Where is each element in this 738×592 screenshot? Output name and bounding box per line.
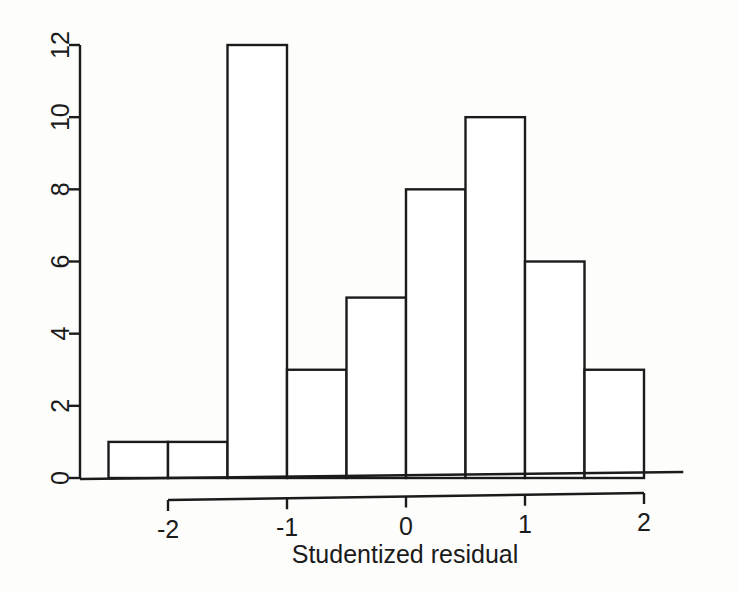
y-tick-label: 0: [46, 471, 74, 485]
histogram-bar: [525, 262, 585, 479]
x-tick-labels: -2-1012: [157, 508, 651, 543]
x-tick-label: 0: [399, 512, 413, 540]
y-tick-label: 12: [46, 31, 74, 59]
histogram-bar: [168, 442, 228, 478]
histogram-figure: 024681012 -2-1012 Studentized residual: [0, 0, 738, 592]
x-tick-label: -1: [276, 513, 298, 541]
y-tick-labels: 024681012: [46, 31, 74, 485]
histogram-bar: [406, 189, 466, 478]
y-tick-label: 10: [46, 103, 74, 131]
histogram-bar: [109, 442, 169, 478]
histogram-bars: [109, 45, 645, 478]
histogram-bar: [287, 370, 347, 478]
x-tick-label: -2: [157, 515, 179, 543]
x-tick-label: 1: [518, 510, 532, 538]
y-tick-label: 6: [46, 255, 74, 269]
y-tick-label: 4: [46, 327, 74, 341]
histogram-bar: [228, 45, 288, 478]
x-axis-title: Studentized residual: [292, 540, 519, 568]
histogram-bar: [466, 117, 526, 478]
histogram-bar: [347, 298, 407, 478]
histogram-bar: [585, 370, 645, 478]
x-tick-label: 2: [637, 508, 651, 536]
y-tick-label: 8: [46, 182, 74, 196]
y-tick-label: 2: [46, 399, 74, 413]
plot-canvas: 024681012 -2-1012 Studentized residual: [0, 0, 738, 592]
